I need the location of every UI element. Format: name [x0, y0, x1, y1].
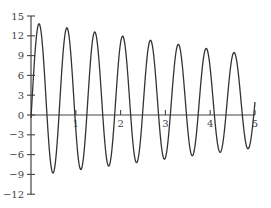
y-tick-label: 3 [18, 90, 24, 101]
y-tick-label: 12 [11, 30, 24, 41]
y-tick-label: 9 [18, 50, 24, 61]
x-tick-label: 2 [117, 118, 123, 129]
y-tick-label: 0 [18, 110, 24, 121]
line-chart: 15129630−3−6−9−12 12345 [0, 0, 271, 208]
y-tick-label: −3 [9, 129, 24, 140]
series-line [31, 24, 255, 173]
y-tick-label: −12 [3, 189, 24, 200]
y-tick-label: −9 [9, 169, 24, 180]
y-axis: 15129630−3−6−9−12 [3, 11, 35, 200]
x-tick-label: 3 [162, 118, 168, 129]
y-tick-label: −6 [9, 149, 24, 160]
x-tick-label: 4 [207, 118, 213, 129]
y-tick-label: 15 [11, 11, 24, 22]
x-axis: 12345 [31, 110, 258, 129]
y-tick-label: 6 [18, 70, 24, 81]
